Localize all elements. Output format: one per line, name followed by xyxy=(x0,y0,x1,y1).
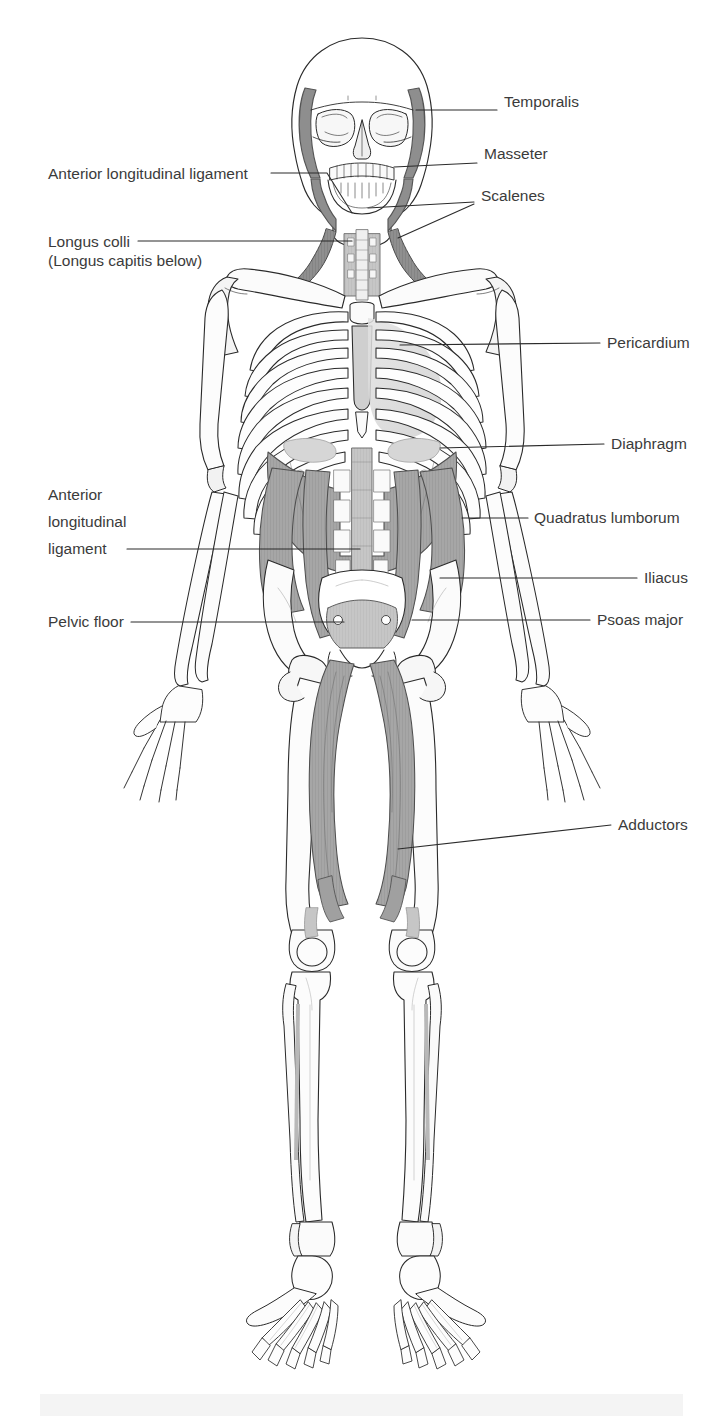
label-psoas-major: Psoas major xyxy=(597,610,683,629)
label-quadratus-lumborum: Quadratus lumborum xyxy=(534,508,680,527)
leader-scalenes-b xyxy=(398,204,474,238)
label-anterior-longitudinal-ligament-lower-line2: longitudinal xyxy=(48,512,126,531)
anatomy-figure-page: Temporalis Masseter Scalenes Pericardium… xyxy=(0,0,723,1416)
label-adductors: Adductors xyxy=(618,815,688,834)
label-masseter: Masseter xyxy=(484,144,548,163)
label-anterior-longitudinal-ligament-lower-line1: Anterior xyxy=(48,485,102,504)
bottom-band xyxy=(40,1394,683,1416)
skull-group xyxy=(292,38,432,247)
label-anterior-longitudinal-ligament-upper: Anterior longitudinal ligament xyxy=(48,164,248,183)
label-pelvic-floor: Pelvic floor xyxy=(48,612,124,631)
label-pericardium: Pericardium xyxy=(607,333,690,352)
label-longus-colli: Longus colli xyxy=(48,232,130,251)
foot-group xyxy=(246,1222,485,1369)
label-longus-capitis-note: (Longus capitis below) xyxy=(48,251,202,270)
label-diaphragm: Diaphragm xyxy=(611,434,687,453)
lower-leg-group xyxy=(283,908,442,1222)
thigh-group xyxy=(278,660,445,940)
label-scalenes: Scalenes xyxy=(481,186,545,205)
skeleton-illustration xyxy=(0,0,723,1416)
label-iliacus: Iliacus xyxy=(644,568,688,587)
label-temporalis: Temporalis xyxy=(504,92,579,111)
label-anterior-longitudinal-ligament-lower-line3: ligament xyxy=(48,539,107,558)
